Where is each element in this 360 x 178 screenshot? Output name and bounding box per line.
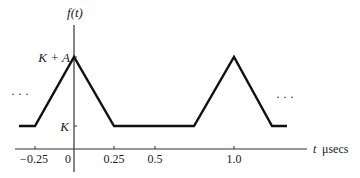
- x-axis-unit-label: μsecs: [322, 142, 349, 156]
- y-tick-label-base: K: [59, 119, 70, 134]
- triangular-pulse-chart: f(t) K + A K · · · · · · −0.25 0 0.25 0.…: [0, 0, 360, 178]
- x-tick-label-05: 0.5: [148, 152, 163, 166]
- ellipsis-right: · · ·: [276, 90, 294, 104]
- x-tick-label-m025: −0.25: [20, 152, 48, 166]
- x-axis-var-label: t: [313, 142, 317, 156]
- x-tick-label-10: 1.0: [227, 152, 242, 166]
- signal-line: [19, 57, 287, 126]
- x-tick-label-0: 0: [65, 152, 71, 166]
- x-tick-label-025: 0.25: [104, 152, 125, 166]
- y-tick-label-peak: K + A: [37, 50, 70, 65]
- ellipsis-left: · · ·: [11, 87, 29, 101]
- y-axis-label: f(t): [67, 5, 83, 20]
